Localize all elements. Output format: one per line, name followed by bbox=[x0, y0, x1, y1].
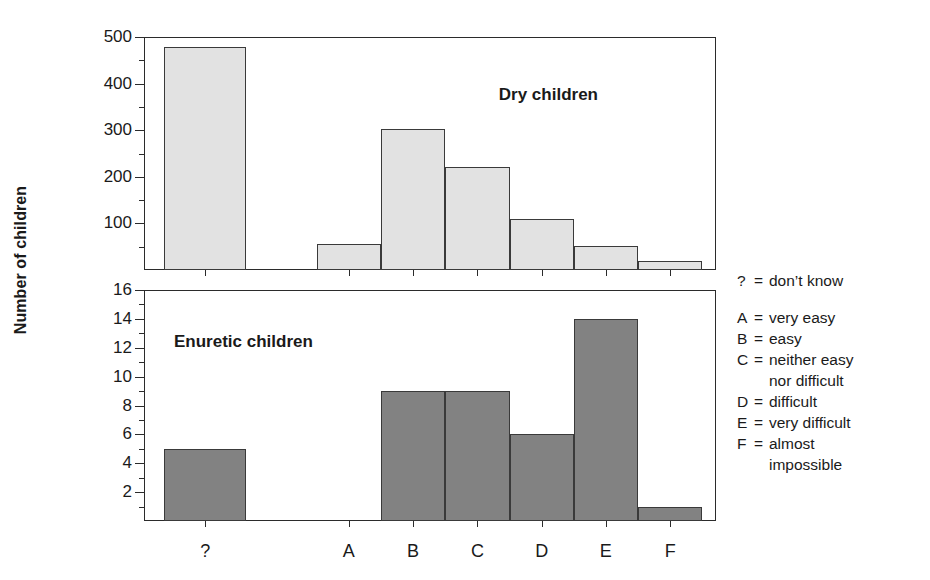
y-tick-minor bbox=[139, 449, 144, 450]
y-tick-minor bbox=[139, 420, 144, 421]
legend-equals: = bbox=[754, 391, 769, 412]
legend-item-B: B=easy bbox=[737, 328, 927, 349]
x-tick bbox=[542, 521, 543, 527]
x-tick-label-C: C bbox=[471, 541, 484, 562]
legend-equals: = bbox=[754, 328, 769, 349]
y-axis-title: Number of children bbox=[4, 0, 38, 520]
x-tick bbox=[205, 270, 206, 276]
legend-equals: = bbox=[754, 349, 769, 370]
y-tick-label: 300 bbox=[78, 120, 132, 140]
x-tick bbox=[606, 270, 607, 276]
y-tick-major bbox=[135, 463, 144, 464]
y-tick-major bbox=[135, 319, 144, 320]
legend-equals: = bbox=[754, 270, 769, 291]
y-tick-major bbox=[135, 84, 144, 85]
y-tick-major bbox=[135, 37, 144, 38]
bar-enuretic-B bbox=[381, 391, 445, 521]
legend-value: almost bbox=[769, 433, 927, 454]
x-tick bbox=[413, 270, 414, 276]
y-tick-major bbox=[135, 223, 144, 224]
legend-spacer bbox=[737, 291, 927, 307]
legend-value-continued: nor difficult bbox=[769, 370, 927, 391]
legend-key: F bbox=[737, 433, 754, 454]
y-tick-label: 12 bbox=[78, 338, 132, 358]
y-tick-label: 400 bbox=[78, 74, 132, 94]
legend: ?=don’t knowA=very easyB=easyC=neither e… bbox=[737, 270, 927, 475]
y-tick-label: 14 bbox=[78, 309, 132, 329]
legend-key: ? bbox=[737, 270, 754, 291]
y-tick-major bbox=[135, 406, 144, 407]
bar-group-enuretic bbox=[144, 290, 716, 521]
y-tick-label: 100 bbox=[78, 213, 132, 233]
figure-canvas: Number of children Dry children 10020030… bbox=[0, 0, 930, 580]
legend-value: easy bbox=[769, 328, 927, 349]
x-tick bbox=[349, 270, 350, 276]
legend-value: don’t know bbox=[769, 270, 927, 291]
chart-panel-enuretic-children: Enuretic children 246810121416 ?ABCDEF bbox=[144, 290, 716, 521]
x-tick bbox=[542, 270, 543, 276]
y-tick-label: 500 bbox=[78, 27, 132, 47]
x-tick bbox=[413, 521, 414, 527]
bar-dry-unknown bbox=[164, 47, 246, 270]
chart-panel-dry-children: Dry children 100200300400500 bbox=[144, 37, 716, 270]
x-tick-label-unknown: ? bbox=[200, 541, 210, 562]
legend-item-C: C=neither easy bbox=[737, 349, 927, 370]
y-tick-major bbox=[135, 130, 144, 131]
bar-dry-B bbox=[381, 129, 445, 270]
y-tick-minor bbox=[139, 333, 144, 334]
legend-value: neither easy bbox=[769, 349, 927, 370]
bar-dry-C bbox=[445, 167, 509, 270]
y-tick-major bbox=[135, 492, 144, 493]
x-tick-label-D: D bbox=[535, 541, 548, 562]
x-tick bbox=[205, 521, 206, 527]
y-tick-major bbox=[135, 290, 144, 291]
y-tick-major bbox=[135, 377, 144, 378]
bar-enuretic-E bbox=[574, 319, 638, 521]
x-tick bbox=[670, 521, 671, 527]
y-tick-label: 8 bbox=[78, 396, 132, 416]
y-tick-minor bbox=[139, 507, 144, 508]
x-tick-label-E: E bbox=[600, 541, 612, 562]
x-tick bbox=[349, 521, 350, 527]
y-tick-label: 2 bbox=[78, 482, 132, 502]
x-tick-label-A: A bbox=[343, 541, 355, 562]
legend-key: A bbox=[737, 307, 754, 328]
y-tick-major bbox=[135, 434, 144, 435]
y-tick-minor bbox=[139, 247, 144, 248]
bar-dry-A bbox=[317, 244, 381, 270]
legend-key: D bbox=[737, 391, 754, 412]
legend-value-continued: impossible bbox=[769, 454, 927, 475]
legend-item-E: E=very difficult bbox=[737, 412, 927, 433]
y-tick-label: 16 bbox=[78, 280, 132, 300]
y-tick-minor bbox=[139, 362, 144, 363]
y-tick-minor bbox=[139, 60, 144, 61]
y-tick-minor bbox=[139, 478, 144, 479]
legend-equals: = bbox=[754, 412, 769, 433]
y-axis-title-text: Number of children bbox=[12, 186, 30, 334]
bar-group-dry bbox=[144, 37, 716, 270]
legend-item-A: A=very easy bbox=[737, 307, 927, 328]
legend-value: very easy bbox=[769, 307, 927, 328]
y-tick-minor bbox=[139, 304, 144, 305]
x-tick bbox=[477, 270, 478, 276]
y-tick-label: 6 bbox=[78, 424, 132, 444]
legend-equals: = bbox=[754, 433, 769, 454]
legend-item-F: F=almost bbox=[737, 433, 927, 454]
y-tick-label: 200 bbox=[78, 167, 132, 187]
x-tick bbox=[477, 521, 478, 527]
y-tick-label: 4 bbox=[78, 453, 132, 473]
bar-enuretic-unknown bbox=[164, 449, 246, 521]
y-tick-minor bbox=[139, 200, 144, 201]
legend-key: B bbox=[737, 328, 754, 349]
y-tick-minor bbox=[139, 391, 144, 392]
legend-value: very difficult bbox=[769, 412, 927, 433]
bar-enuretic-C bbox=[445, 391, 509, 521]
legend-item-D: D=difficult bbox=[737, 391, 927, 412]
bar-dry-E bbox=[574, 246, 638, 270]
x-tick-label-F: F bbox=[665, 541, 676, 562]
y-tick-label: 10 bbox=[78, 367, 132, 387]
legend-equals: = bbox=[754, 307, 769, 328]
legend-value: difficult bbox=[769, 391, 927, 412]
bar-enuretic-D bbox=[510, 434, 574, 521]
y-tick-major bbox=[135, 177, 144, 178]
